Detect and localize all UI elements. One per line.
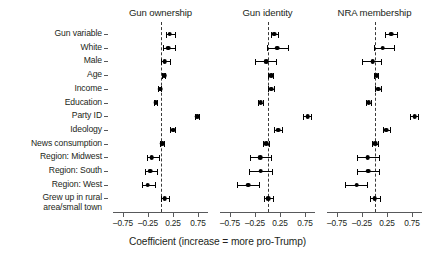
x-axis-tick [280,213,281,217]
y-axis-label: Region: South [49,166,102,176]
point-estimate-dot [269,73,274,78]
panel-title: Gun identity [215,7,320,18]
ci-cap-high [269,141,270,147]
ci-cap-high [170,59,171,65]
estimate-marker [303,116,312,117]
ci-cap-low [357,155,358,161]
point-estimate-dot [276,128,281,133]
estimate-marker [250,157,272,158]
point-estimate-dot [264,141,269,146]
x-axis-tick-label: –0.25 [245,218,265,228]
x-axis-tick-label: –0.75 [220,218,240,228]
panel-title: NRA membership [322,7,427,18]
zero-reference-line [161,22,162,212]
y-axis-label: Party ID [72,111,102,121]
ci-cap-low [385,32,386,38]
x-axis-tick [148,213,149,217]
estimate-marker [362,61,382,62]
estimate-marker [249,171,273,172]
x-axis-title: Coefficient (increase = more pro-Trump) [0,236,435,247]
x-axis-tick-label: 0.25 [165,218,180,228]
ci-cap-high [273,196,274,202]
y-axis-label: Education [65,98,102,108]
ci-cap-high [367,182,368,188]
estimate-marker [160,144,165,145]
y-axis-label: Income [74,84,102,94]
ci-cap-high [379,155,380,161]
point-estimate-dot [195,114,200,119]
ci-cap-high [274,86,275,92]
panel-title: Gun ownership [108,7,213,18]
estimate-marker [158,89,162,90]
estimate-marker [154,103,158,104]
point-estimate-dot [166,46,171,51]
ci-cap-high [381,86,382,92]
point-estimate-dot [380,46,385,51]
estimate-marker [372,144,380,145]
y-axis-label: Male [84,56,102,66]
point-estimate-dot [171,128,176,133]
ci-cap-low [249,169,250,175]
point-estimate-dot [269,87,274,92]
ci-cap-low [255,59,256,65]
estimate-marker [163,48,177,49]
ci-cap-high [390,127,391,133]
x-axis-tick-label: 0.75 [190,218,205,228]
ci-cap-low [357,169,358,175]
point-estimate-dot [158,87,163,92]
estimate-marker [142,185,156,186]
point-estimate-dot [149,155,154,160]
y-axis-label: Gun variable [54,29,102,39]
plot-area [215,22,320,212]
x-axis-tick [198,213,199,217]
estimate-marker [375,89,382,90]
estimate-marker [385,34,398,35]
y-axis-label: Grew up in rural area/small town [42,193,102,212]
x-axis-tick-label: –0.75 [113,218,133,228]
ci-cap-high [418,114,419,120]
x-axis-tick-label: 0.25 [272,218,287,228]
point-estimate-dot [145,183,150,188]
panel-gun-ownership: Gun ownership–0.75–0.250.250.75 [108,0,213,268]
estimate-marker [162,75,166,76]
estimate-marker [274,130,283,131]
point-estimate-dot [373,141,378,146]
point-estimate-dot [354,183,359,188]
y-axis-label: Region: West [52,180,102,190]
estimate-marker [258,103,264,104]
point-estimate-dot [305,114,310,119]
estimate-marker [374,48,395,49]
ci-cap-low [145,169,146,175]
plot-area [322,22,427,212]
point-estimate-dot [365,155,370,160]
y-axis-label: White [81,43,102,53]
ci-cap-high [155,182,156,188]
ci-cap-high [157,169,158,175]
x-axis-tick [123,213,124,217]
x-axis-tick-label: 0.75 [297,218,312,228]
point-estimate-dot [266,196,271,201]
ci-cap-low [264,196,265,202]
ci-cap-low [303,114,304,120]
point-estimate-dot [272,32,277,37]
point-estimate-dot [160,141,165,146]
ci-cap-low [374,45,375,51]
ci-cap-low [370,196,371,202]
point-estimate-dot [162,73,167,78]
ci-cap-high [379,169,380,175]
point-estimate-dot [246,183,251,188]
point-estimate-dot [275,46,280,51]
point-estimate-dot [258,155,263,160]
ci-cap-high [175,45,176,51]
ci-cap-high [271,155,272,161]
ci-cap-low [345,182,346,188]
estimate-marker [237,185,261,186]
panel-nra-membership: NRA membership–0.75–0.250.250.75 [322,0,427,268]
estimate-marker [383,130,391,131]
zero-reference-line [268,22,269,212]
x-axis-tick-label: 0.25 [379,218,394,228]
x-axis-tick [387,213,388,217]
x-axis-tick [305,213,306,217]
y-axis-category-labels: Gun variableWhiteMaleAgeIncomeEducationP… [0,0,108,268]
ci-cap-low [362,59,363,65]
